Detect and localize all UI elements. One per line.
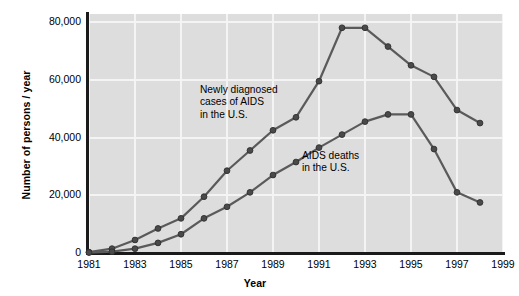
gridline-horizontal xyxy=(89,21,503,23)
annotation-line: in the U.S. xyxy=(200,109,278,121)
gridline-vertical xyxy=(456,14,458,253)
annotation-line: AIDS deaths xyxy=(302,150,359,162)
gridline-vertical xyxy=(226,14,228,253)
annotation-cases: Newly diagnosedcases of AIDSin the U.S. xyxy=(200,84,278,121)
y-tick-label: 40,000 xyxy=(1,131,81,143)
x-axis-title: Year xyxy=(0,277,510,289)
gridline-horizontal xyxy=(89,79,503,81)
plot-area xyxy=(89,14,503,253)
gridline-vertical xyxy=(410,14,412,253)
gridline-vertical xyxy=(502,14,503,253)
x-axis-spine xyxy=(86,252,505,255)
annotation-line: in the U.S. xyxy=(302,162,359,174)
gridline-horizontal xyxy=(89,137,503,139)
gridline-vertical xyxy=(180,14,182,253)
gridline-vertical xyxy=(318,14,320,253)
y-axis-spine xyxy=(86,12,89,255)
annotation-line: cases of AIDS xyxy=(200,96,278,108)
gridline-vertical xyxy=(272,14,274,253)
gridline-horizontal xyxy=(89,194,503,196)
y-tick-label: 20,000 xyxy=(1,188,81,200)
y-tick-label: 0 xyxy=(1,246,81,258)
x-tick-label: 1999 xyxy=(468,258,519,270)
y-tick-label: 60,000 xyxy=(1,73,81,85)
annotation-deaths: AIDS deathsin the U.S. xyxy=(302,150,359,175)
annotation-line: Newly diagnosed xyxy=(200,84,278,96)
gridline-vertical xyxy=(364,14,366,253)
gridline-vertical xyxy=(134,14,136,253)
gridline-vertical xyxy=(89,14,90,253)
y-tick-label: 80,000 xyxy=(1,15,81,27)
